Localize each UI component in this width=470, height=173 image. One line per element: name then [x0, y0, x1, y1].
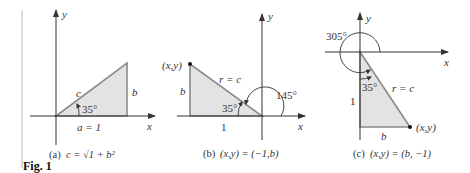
point-label-c: (x,y)	[416, 121, 436, 134]
base-label-c: b	[381, 130, 387, 142]
base-label-b: 1	[221, 121, 227, 133]
big-angle-label-b: 145°	[276, 89, 297, 101]
caption-b: (x,y) = (−1,b)	[220, 148, 279, 160]
figure-label: Fig. 1	[23, 159, 52, 173]
x-axis-label-a: x	[146, 120, 152, 132]
panel-a: y x c b 35° a = 1 (a) c = √1 + b²	[30, 8, 155, 161]
y-axis-label-a: y	[61, 8, 67, 20]
x-axis-label-c: x	[443, 56, 449, 68]
point-b	[188, 62, 192, 66]
caption-prefix-c: (c)	[353, 148, 365, 160]
big-angle-label-c: 305°	[326, 30, 347, 42]
panel-b: y x (x,y) r = c b 1 35° 145° (b) (x,y) =…	[162, 10, 305, 160]
x-axis-label-b: x	[297, 120, 303, 132]
hyp-label-c: r = c	[392, 82, 414, 94]
base-label-a: a = 1	[77, 121, 101, 133]
point-label-b: (x,y)	[162, 59, 182, 72]
side-label-b: b	[180, 85, 186, 97]
angle-label-b: 35°	[222, 102, 237, 114]
y-axis-label-b: y	[267, 10, 273, 22]
caption-a: c = √1 + b²	[66, 149, 116, 160]
panel-c: y x 305° 35° r = c 1 b (x,y) (c) (x,y) =…	[325, 12, 449, 160]
side-label-a: b	[132, 86, 138, 98]
hyp-label-b: r = c	[219, 73, 241, 85]
hyp-label-a: c	[76, 87, 81, 99]
caption-c: (x,y) = (b, −1)	[370, 148, 432, 160]
angle-label-a: 35°	[82, 103, 97, 115]
point-c	[408, 125, 412, 129]
y-axis-label-c: y	[365, 12, 371, 24]
side-label-c: 1	[350, 95, 356, 107]
angle-label-c: 35°	[362, 81, 377, 93]
figure-canvas: y x c b 35° a = 1 (a) c = √1 + b² y x (x…	[0, 0, 470, 173]
caption-prefix-b: (b)	[203, 148, 216, 160]
